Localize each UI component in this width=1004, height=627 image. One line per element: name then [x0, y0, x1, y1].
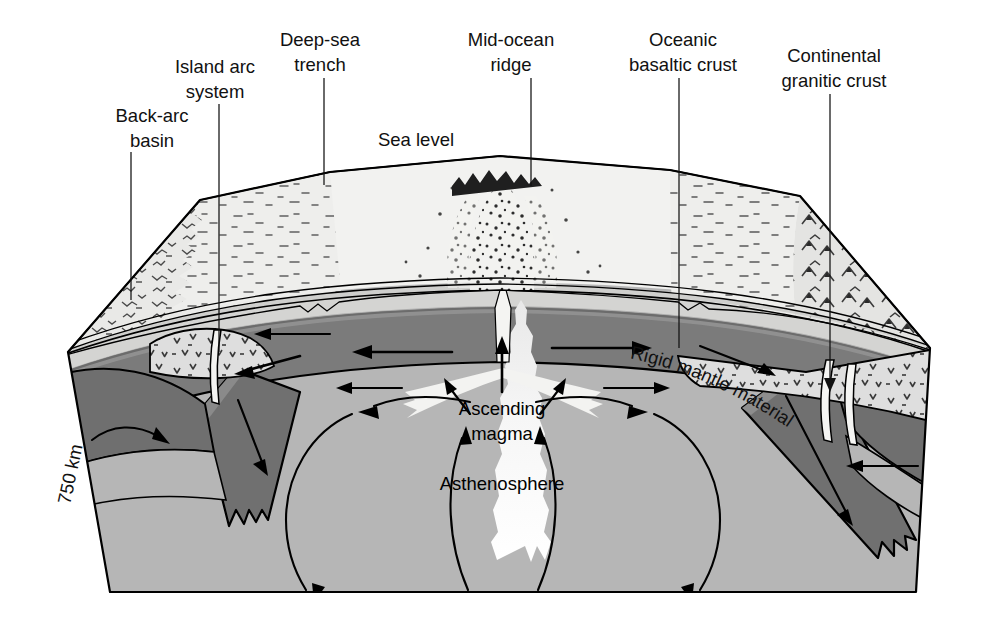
callout-back-arc-basin-line-2: basin [130, 130, 174, 151]
diagram-svg: Rigid mantle material 750 km Ascending m… [0, 0, 1004, 627]
callout-deep-sea-trench-line-1: Deep-sea [280, 29, 361, 50]
block-body [0, 0, 1004, 627]
ascending-magma-line-2: magma [471, 423, 533, 444]
callout-island-arc-system: Island arc system [175, 56, 255, 102]
callout-back-arc-basin: Back-arc basin [116, 105, 189, 151]
figure-canvas: Rigid mantle material 750 km Ascending m… [0, 0, 1004, 627]
callout-deep-sea-trench: Deep-sea trench [280, 29, 361, 75]
sea-level-label: Sea level [378, 129, 454, 150]
depth-scale-label: 750 km [53, 442, 86, 506]
callout-continental-granitic-crust-line-1: Continental [787, 45, 881, 66]
callout-island-arc-system-line-1: Island arc [175, 56, 255, 77]
callout-island-arc-system-line-2: system [186, 81, 245, 102]
asthenosphere-line-1: Asthenosphere [440, 473, 564, 494]
callout-back-arc-basin-line-1: Back-arc [116, 105, 189, 126]
interior-label-asthenosphere: Asthenosphere [440, 473, 564, 494]
callout-oceanic-basaltic-crust: Oceanic basaltic crust [629, 29, 737, 75]
callout-mid-ocean-ridge-line-2: ridge [490, 54, 531, 75]
ascending-magma-line-1: Ascending [459, 398, 545, 419]
callout-mid-ocean-ridge-line-1: Mid-ocean [468, 29, 554, 50]
callout-continental-granitic-crust-line-2: granitic crust [782, 70, 887, 91]
callout-oceanic-basaltic-crust-line-2: basaltic crust [629, 54, 737, 75]
callout-oceanic-basaltic-crust-line-1: Oceanic [649, 29, 717, 50]
callout-deep-sea-trench-line-2: trench [294, 54, 345, 75]
callout-continental-granitic-crust: Continental granitic crust [782, 45, 887, 91]
callout-mid-ocean-ridge: Mid-ocean ridge [468, 29, 554, 75]
